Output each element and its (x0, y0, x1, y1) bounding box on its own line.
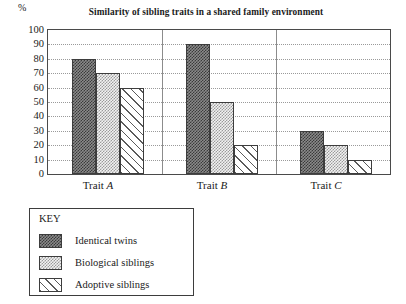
y-axis-tick-100: 100 (2, 25, 44, 36)
bar-trait-b-identical-twins (186, 44, 210, 174)
bar-trait-b-adoptive-siblings (234, 145, 258, 174)
y-axis-tick-70: 70 (2, 68, 44, 79)
gridline-90 (48, 44, 390, 45)
y-axis-tick-20: 20 (2, 140, 44, 151)
x-axis-label-trait-c: Trait C (276, 179, 376, 191)
legend-box: KEY Identical twins Biological siblings … (29, 208, 194, 296)
group-separator-2 (276, 30, 277, 174)
bar-trait-a-identical-twins (72, 59, 96, 174)
legend-label-biological-siblings: Biological siblings (75, 257, 154, 268)
y-axis-tick-60: 60 (2, 83, 44, 94)
y-axis: 1009080706050403020100 (0, 29, 44, 175)
plot-inner (48, 30, 390, 174)
y-axis-tick-0: 0 (2, 169, 44, 180)
group-separator-1 (162, 30, 163, 174)
y-axis-tick-10: 10 (2, 155, 44, 166)
bar-trait-a-adoptive-siblings (120, 88, 144, 174)
y-axis-tick-30: 30 (2, 126, 44, 137)
chart-title: Similarity of sibling traits in a shared… (56, 7, 356, 17)
x-axis-label-trait-b: Trait B (162, 179, 262, 191)
bar-trait-a-biological-siblings (96, 73, 120, 174)
bar-trait-b-biological-siblings (210, 102, 234, 174)
y-axis-tick-90: 90 (2, 39, 44, 50)
legend-title: KEY (39, 213, 61, 224)
bar-trait-c-biological-siblings (324, 145, 348, 174)
legend-label-adoptive-siblings: Adoptive siblings (75, 279, 149, 290)
y-axis-tick-50: 50 (2, 97, 44, 108)
bar-trait-c-identical-twins (300, 131, 324, 174)
x-axis-label-trait-a: Trait A (48, 179, 148, 191)
plot-area (47, 29, 391, 175)
legend-label-identical-twins: Identical twins (75, 235, 137, 246)
gridline-80 (48, 59, 390, 60)
legend-swatch-adoptive-siblings (39, 278, 62, 292)
y-axis-tick-80: 80 (2, 54, 44, 65)
legend-swatch-identical-twins (39, 234, 62, 248)
y-axis-unit-label: % (18, 2, 26, 13)
legend-swatch-biological-siblings (39, 256, 62, 270)
y-axis-tick-40: 40 (2, 111, 44, 122)
bar-trait-c-adoptive-siblings (348, 160, 372, 174)
